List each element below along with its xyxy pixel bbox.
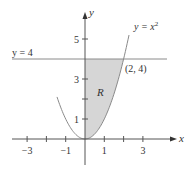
x-tick-label-3: 3 (140, 145, 145, 156)
x-axis-arrow-icon (170, 137, 177, 142)
x-tick-label-neg3: −3 (22, 145, 33, 156)
region-r-fill (85, 59, 124, 139)
chart-canvas: −3 −1 1 3 1 3 5 x y y = 4 (2, 4) y = x2 … (0, 0, 191, 172)
y-tick-label-3: 3 (74, 74, 79, 85)
curve-label-base: y = x (133, 21, 155, 32)
line-label-y-equals-4: y = 4 (12, 47, 33, 58)
region-label-r: R (96, 86, 104, 98)
y-tick-label-5: 5 (74, 34, 79, 45)
y-tick-label-1: 1 (74, 114, 79, 125)
x-tick-label-neg1: −1 (60, 145, 71, 156)
curve-label-exponent: 2 (155, 20, 159, 28)
y-axis-arrow-icon (83, 12, 88, 19)
point-label-2-4: (2, 4) (125, 63, 147, 75)
x-tick-label-1: 1 (102, 145, 107, 156)
y-axis-label: y (88, 6, 94, 18)
curve-label-y-equals-x-squared: y = x2 (133, 20, 159, 32)
x-axis-label: x (178, 132, 184, 144)
